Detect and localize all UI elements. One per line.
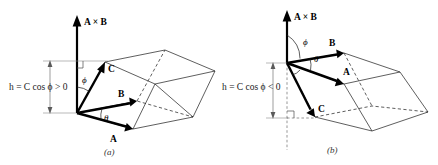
bottom-front-edges-b bbox=[315, 112, 428, 131]
bottom-back-edges-b bbox=[315, 106, 428, 117]
axis-arrowhead-a bbox=[73, 15, 82, 27]
vector-b-arrowhead-b bbox=[336, 49, 344, 58]
vector-b-shaft-a bbox=[77, 103, 130, 113]
angle-phi-label-a: ϕ bbox=[82, 75, 87, 85]
height-formula-b: h = C cos ϕ < 0 bbox=[222, 82, 281, 92]
caption-a: (a) bbox=[104, 147, 115, 157]
vector-c-a: C bbox=[77, 62, 115, 113]
angle-theta-arc-b bbox=[310, 59, 311, 71]
angle-phi-a: ϕ bbox=[77, 75, 90, 92]
parallelepiped-b bbox=[287, 53, 428, 131]
panel-a: A × B h = C cos ϕ > 0 C bbox=[9, 15, 215, 157]
vector-c-label-b: C bbox=[318, 104, 325, 114]
edge-right-b bbox=[400, 72, 428, 112]
vector-c-label-a: C bbox=[108, 64, 115, 74]
vector-b-shaft-b bbox=[287, 55, 337, 64]
angle-phi-arc-a bbox=[77, 87, 90, 92]
angle-theta-b: θ bbox=[310, 54, 319, 71]
vector-a-shaft-a bbox=[77, 113, 126, 127]
edge-right-a bbox=[193, 71, 215, 117]
vector-a-arrowhead-b bbox=[335, 78, 344, 87]
height-dimension-a: h = C cos ϕ > 0 bbox=[9, 60, 108, 114]
edge-inner-right-a bbox=[155, 84, 193, 117]
vector-a-arrowhead-a bbox=[124, 123, 133, 132]
vector-a-label-a: A bbox=[110, 134, 117, 144]
axis-a-cross-b-a: A × B bbox=[73, 15, 108, 113]
angle-theta-arc-a bbox=[101, 109, 102, 121]
axis-arrowhead-b bbox=[283, 10, 292, 22]
vector-c-arrowhead-b bbox=[306, 108, 315, 117]
triple-product-figure: A × B h = C cos ϕ > 0 C bbox=[0, 0, 438, 165]
parallelepiped-a bbox=[77, 50, 215, 129]
height-formula-a: h = C cos ϕ > 0 bbox=[9, 82, 68, 92]
angle-theta-label-a: θ bbox=[104, 113, 109, 123]
top-face-a bbox=[105, 50, 215, 84]
caption-b: (b) bbox=[327, 145, 338, 155]
panel-b: A × B h = C cos ϕ < 0 bbox=[222, 10, 428, 155]
angle-phi-b: ϕ bbox=[287, 35, 308, 59]
angle-phi-label-b: ϕ bbox=[303, 37, 308, 47]
angle-phi-arc-b bbox=[287, 35, 300, 59]
right-angle-mark-b bbox=[287, 111, 294, 118]
vector-a-label-b: A bbox=[343, 67, 350, 77]
angle-theta-label-b: θ bbox=[314, 54, 319, 64]
axis-label-b: A × B bbox=[294, 12, 317, 22]
edge-front-right-b bbox=[344, 84, 372, 131]
edge-front-right-a bbox=[133, 84, 155, 129]
axis-label-a: A × B bbox=[84, 17, 107, 27]
height-dimension-b: h = C cos ϕ < 0 bbox=[222, 62, 316, 150]
vector-b-label-b: B bbox=[329, 38, 336, 48]
vector-b-label-a: B bbox=[118, 89, 125, 99]
edge-hidden-a bbox=[137, 50, 165, 101]
vector-b-arrowhead-a bbox=[129, 98, 137, 107]
vector-b-a: B bbox=[77, 89, 137, 113]
figure-root: A × B h = C cos ϕ > 0 C bbox=[0, 0, 438, 165]
bottom-front-edges-a bbox=[77, 113, 193, 129]
